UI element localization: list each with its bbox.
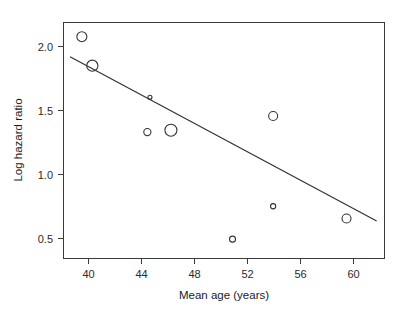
- x-tick-label: 56: [294, 268, 306, 280]
- y-axis-title: Log hazard ratio: [12, 98, 24, 181]
- y-tick-label: 1.0: [38, 169, 53, 181]
- data-point: [165, 124, 177, 136]
- data-point: [269, 111, 278, 120]
- data-point: [271, 204, 276, 209]
- x-axis: 40 44 48 52 56 60: [82, 259, 359, 281]
- data-point: [144, 129, 151, 136]
- x-tick-label: 60: [347, 268, 359, 280]
- scatter-plot-canvas: 2.0 1.5 1.0 0.5 40 44 48 52 56 60 Mean a…: [0, 0, 404, 310]
- x-tick-label: 48: [188, 268, 200, 280]
- data-point: [87, 60, 98, 71]
- data-point: [148, 95, 152, 99]
- x-tick-label: 40: [82, 268, 94, 280]
- data-point: [77, 32, 87, 42]
- chart-figure: 2.0 1.5 1.0 0.5 40 44 48 52 56 60 Mean a…: [0, 0, 404, 310]
- data-point: [230, 236, 236, 242]
- x-tick-label: 44: [135, 268, 147, 280]
- y-tick-label: 2.0: [38, 41, 53, 53]
- plot-frame: [64, 23, 385, 259]
- y-tick-label: 1.5: [38, 105, 53, 117]
- data-point: [342, 214, 351, 223]
- x-axis-title: Mean age (years): [179, 289, 269, 301]
- x-tick-label: 52: [241, 268, 253, 280]
- y-tick-label: 0.5: [38, 233, 53, 245]
- regression-line: [70, 57, 377, 221]
- data-point-group: [77, 32, 351, 242]
- y-axis: 2.0 1.5 1.0 0.5: [38, 41, 63, 245]
